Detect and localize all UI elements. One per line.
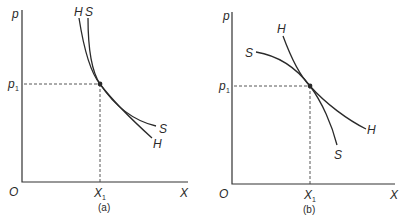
curve-s-end-label-a: S [159, 122, 167, 136]
axes-a [22, 10, 188, 182]
quantity-sub-b: 1 [312, 196, 316, 203]
price-label-a: p [7, 77, 15, 91]
curve-s-end-label-b: S [334, 148, 342, 162]
origin-label-b: O [219, 187, 228, 201]
curve-s-a [88, 18, 156, 126]
curve-h-a [79, 18, 152, 138]
panel-a: p O X H S S H p 1 X 1 (a) [7, 5, 189, 213]
diagram: p O X H S S H p 1 X 1 (a) p O X H S H S … [0, 0, 400, 221]
curve-h-start-label-a: H [74, 5, 83, 19]
curve-h-b [283, 36, 366, 129]
curve-h-start-label-b: H [277, 22, 286, 36]
curve-h-end-label-a: H [153, 137, 162, 151]
price-label-b: p [218, 79, 226, 93]
x-axis-label-b: X [389, 188, 399, 202]
y-axis-label-a: p [11, 7, 19, 21]
y-axis-label-b: p [222, 9, 230, 23]
quantity-sub-a: 1 [102, 194, 106, 201]
curve-s-start-label-a: S [85, 5, 93, 19]
origin-label-a: O [9, 185, 18, 199]
axes-b [232, 12, 395, 184]
price-sub-b: 1 [226, 87, 230, 94]
curve-s-start-label-b: S [245, 46, 253, 60]
panel-b: p O X H S H S p 1 X 1 (b) [218, 9, 399, 215]
tangency-point-b [308, 84, 313, 89]
caption-a: (a) [98, 202, 110, 213]
curve-h-end-label-b: H [367, 123, 376, 137]
caption-b: (b) [303, 204, 315, 215]
tangency-point-a [98, 82, 103, 87]
price-sub-a: 1 [15, 85, 19, 92]
x-axis-label-a: X [179, 186, 189, 200]
